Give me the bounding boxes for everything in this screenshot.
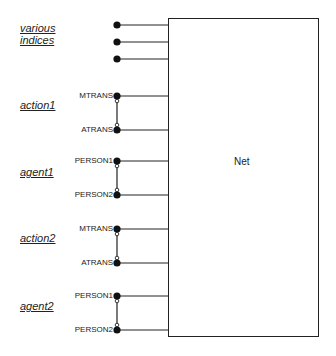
input-node-icon [113, 92, 120, 99]
node-label: MTRANS [43, 91, 113, 100]
group-label-line: agent1 [20, 166, 54, 178]
net-box [169, 19, 319, 337]
link-port-icon [115, 123, 119, 127]
input-node-icon [113, 126, 120, 133]
input-node-icon [113, 38, 120, 45]
net-label: Net [234, 156, 250, 167]
group-label: agent1 [20, 166, 54, 178]
link-port-icon [115, 188, 119, 192]
node-label: PERSON1 [43, 156, 113, 165]
node-label: PERSON2 [43, 325, 113, 334]
input-node-icon [113, 326, 120, 333]
node-label: ATRANS [43, 125, 113, 134]
link-port-icon [115, 323, 119, 327]
link-port-icon [115, 299, 119, 303]
input-node-icon [113, 21, 120, 28]
input-node-icon [113, 157, 120, 164]
input-node-icon [113, 55, 120, 62]
group-label: variousindices [20, 22, 55, 46]
group-label-line: various [20, 22, 55, 34]
node-label: PERSON2 [43, 190, 113, 199]
node-label: PERSON1 [43, 291, 113, 300]
node-label: ATRANS [43, 258, 113, 267]
input-node-icon [113, 225, 120, 232]
link-port-icon [115, 232, 119, 236]
link-port-icon [115, 164, 119, 168]
link-port-icon [115, 256, 119, 260]
group-label-line: action2 [20, 232, 55, 244]
input-node-icon [113, 292, 120, 299]
group-label: agent2 [20, 300, 54, 312]
group-label: action2 [20, 232, 55, 244]
input-node-icon [113, 191, 120, 198]
group-label-line: indices [20, 34, 55, 46]
group-label-line: agent2 [20, 300, 54, 312]
link-port-icon [115, 99, 119, 103]
input-wires [117, 25, 168, 330]
node-label: MTRANS [43, 224, 113, 233]
input-node-icon [113, 259, 120, 266]
group-label: action1 [20, 99, 55, 111]
group-label-line: action1 [20, 99, 55, 111]
